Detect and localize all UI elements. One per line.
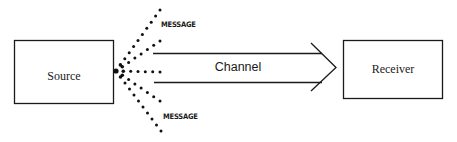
receiver-label: Receiver [372,62,415,76]
ray-dot [127,61,130,64]
ray-dot [159,100,162,103]
ray-dot [146,112,149,115]
channel-arrowhead [311,43,336,91]
ray-dot [141,33,144,36]
ray-dot [159,71,162,74]
message-ray [119,75,163,132]
ray-dot [132,45,135,48]
communication-model-diagram: Source Channel Receiver MESSAGE MESSAGE [0,0,457,142]
receiver-node: Receiver [344,41,443,99]
ray-dot [128,88,131,91]
ray-dot [140,87,143,90]
ray-dot [145,27,148,30]
ray-dot [146,48,149,51]
ray-dot [137,100,140,103]
ray-dot [137,39,140,42]
ray-dot [151,70,154,73]
channel-arrow: Channel [153,43,336,91]
ray-dot [151,118,154,121]
ray-dot [159,9,162,12]
ray-dot [142,106,145,109]
ray-dot [119,75,123,79]
ray-dot [140,52,143,55]
ray-dot [129,70,132,73]
message-ray [119,9,162,67]
ray-dot [128,51,131,54]
ray-dot [123,57,126,60]
source-label: Source [47,69,80,83]
ray-dot [133,57,136,60]
ray-dot [160,130,163,133]
message-rays [113,9,162,133]
ray-dot [121,65,125,69]
ray-dot [155,124,158,127]
ray-dot [159,40,162,43]
source-node: Source [15,41,114,104]
channel-label: Channel [215,60,262,74]
ray-dot [133,82,136,85]
ray-dot [146,91,149,94]
ray-dot [152,44,155,47]
ray-dot [144,70,147,73]
ray-dot [152,95,155,98]
message-ray [122,69,162,73]
ray-dot [133,94,136,97]
message-label-top: MESSAGE [161,20,196,29]
ray-dot [137,70,140,73]
message-ray [121,74,162,103]
ray-dot [154,15,157,18]
ray-dot [122,69,126,73]
ray-dot [127,78,130,81]
ray-origin-dot [113,68,118,73]
ray-dot [150,21,153,24]
ray-dot [124,82,127,85]
message-label-bottom: MESSAGE [163,112,198,121]
